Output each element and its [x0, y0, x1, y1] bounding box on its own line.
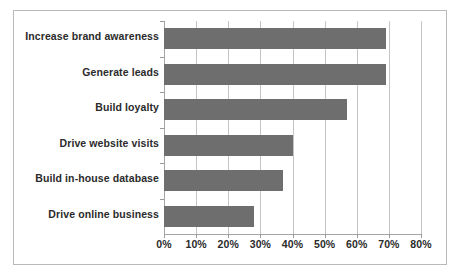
category-label: Build in-house database [16, 172, 164, 184]
bar-drive-online-business [164, 206, 254, 227]
y-tick-mark [160, 163, 164, 164]
gridline-70 [389, 21, 390, 234]
bar-drive-website-visits [164, 135, 293, 156]
category-label: Drive online business [16, 208, 164, 220]
bar-build-loyalty [164, 99, 347, 120]
category-label: Build loyalty [16, 101, 164, 113]
y-tick-mark [160, 199, 164, 200]
gridline-30 [260, 21, 261, 234]
x-tick-label: 80% [401, 238, 441, 250]
gridline-0 [164, 21, 165, 234]
category-label: Generate leads [16, 66, 164, 78]
plot-area [164, 21, 421, 234]
category-axis-labels: Increase brand awareness Generate leads … [14, 21, 164, 234]
gridline-50 [325, 21, 326, 234]
gridline-20 [228, 21, 229, 234]
gridline-60 [357, 21, 358, 234]
gridline-40 [293, 21, 294, 234]
gridline-10 [196, 21, 197, 234]
bar-generate-leads [164, 64, 386, 85]
category-label: Drive website visits [16, 137, 164, 149]
x-axis-tick-labels: 0% 10% 20% 30% 40% 50% 60% 70% 80% [164, 238, 421, 254]
bar-increase-brand-awareness [164, 28, 386, 49]
bar-build-in-house-database [164, 170, 283, 191]
gridline-80 [421, 21, 422, 234]
y-tick-mark [160, 57, 164, 58]
y-tick-mark [160, 128, 164, 129]
category-label: Increase brand awareness [16, 30, 164, 42]
y-tick-mark [160, 21, 164, 22]
y-tick-mark [160, 92, 164, 93]
chart-frame: Increase brand awareness Generate leads … [13, 10, 447, 265]
